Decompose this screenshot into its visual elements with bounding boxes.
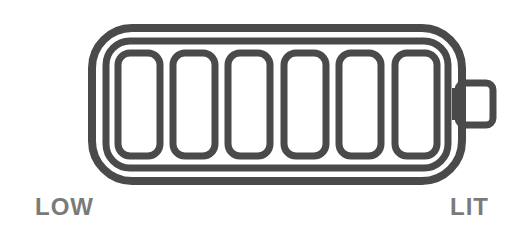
battery-cell-1 [118, 53, 160, 156]
battery-cell-6 [395, 53, 437, 156]
battery-cell-3 [228, 53, 270, 156]
battery-cell-5 [339, 53, 381, 156]
battery-cell-2 [173, 53, 215, 156]
lit-label: LIT [450, 194, 489, 220]
low-label: LOW [35, 194, 94, 220]
battery-cell-4 [284, 53, 326, 156]
